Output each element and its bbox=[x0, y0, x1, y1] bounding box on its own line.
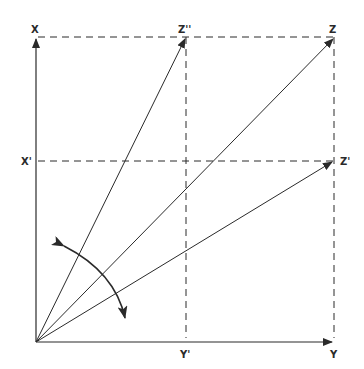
label-z-prime: Z' bbox=[340, 156, 350, 167]
label-z: Z bbox=[329, 24, 336, 35]
label-y-prime: Y' bbox=[179, 349, 190, 360]
label-z-double-prime: Z'' bbox=[178, 24, 191, 35]
label-y: Y bbox=[329, 349, 338, 360]
z-vector bbox=[36, 39, 333, 342]
label-x: X bbox=[31, 24, 39, 35]
vector-diagram: X Z'' Z X' Z' Y' Y bbox=[0, 0, 364, 369]
label-x-prime: X' bbox=[21, 156, 32, 167]
